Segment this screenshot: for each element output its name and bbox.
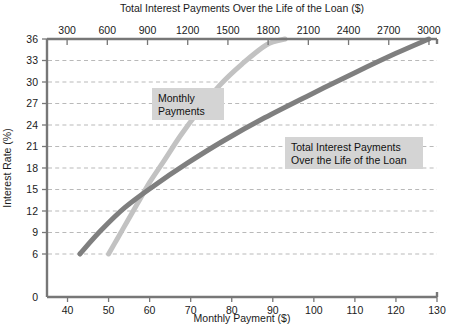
- top-tick-label-3000: 3000: [417, 24, 441, 36]
- monthly-payments-label: MonthlyPayments: [152, 88, 224, 120]
- x-tick-label-100: 100: [305, 304, 323, 316]
- x-tick-label-110: 110: [347, 304, 364, 316]
- top-axis-title: Total Interest Payments Over the Life of…: [120, 2, 364, 14]
- top-tick-label-1200: 1200: [176, 24, 200, 36]
- top-tick-label-1800: 1800: [256, 24, 280, 36]
- top-tick-label-2100: 2100: [297, 24, 321, 36]
- y-tick-label-15: 15: [26, 183, 38, 195]
- total-interest-label-line-0: Total Interest Payments: [291, 141, 401, 153]
- top-tick-label-900: 900: [139, 24, 157, 36]
- y-tick-label-0: 0: [32, 291, 38, 303]
- y-axis-title: Interest Rate (%): [1, 128, 13, 207]
- y-tick-label-12: 12: [26, 205, 38, 217]
- y-tick-label-6: 6: [32, 248, 38, 260]
- y-tick-label-33: 33: [26, 54, 38, 66]
- total-interest-label: Total Interest PaymentsOver the Life of …: [285, 137, 423, 169]
- top-tick-label-300: 300: [58, 24, 76, 36]
- x-tick-label-40: 40: [62, 304, 74, 316]
- x-tick-label-120: 120: [387, 304, 405, 316]
- y-tick-label-27: 27: [26, 97, 38, 109]
- chart-svg: Total Interest Payments Over the Life of…: [0, 0, 457, 332]
- x-axis-title: Monthly Payment ($): [194, 312, 291, 324]
- monthly-payments-label-line-1: Payments: [158, 105, 205, 117]
- y-tick-label-18: 18: [26, 162, 38, 174]
- y-tick-label-30: 30: [26, 76, 38, 88]
- top-tick-label-600: 600: [99, 24, 117, 36]
- top-tick-label-2700: 2700: [377, 24, 401, 36]
- top-tick-label-1500: 1500: [216, 24, 240, 36]
- y-tick-label-9: 9: [32, 226, 38, 238]
- x-tick-label-50: 50: [103, 304, 115, 316]
- top-axis-ticks: 3006009001200150018002100240027003000: [58, 24, 440, 45]
- total-interest-label-line-1: Over the Life of the Loan: [291, 154, 407, 166]
- y-tick-label-24: 24: [26, 119, 38, 131]
- loan-comparison-chart: Total Interest Payments Over the Life of…: [0, 0, 457, 332]
- x-tick-label-130: 130: [428, 304, 446, 316]
- y-tick-label-36: 36: [26, 33, 38, 45]
- monthly-payments-label-line-0: Monthly: [158, 92, 196, 104]
- y-tick-label-21: 21: [26, 140, 38, 152]
- y-axis-ticks: 069121518212427303336: [26, 33, 47, 303]
- x-tick-label-60: 60: [144, 304, 156, 316]
- top-tick-label-2400: 2400: [337, 24, 361, 36]
